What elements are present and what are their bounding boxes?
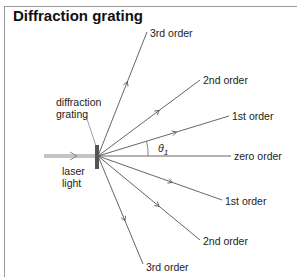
order-label: 3rd order xyxy=(150,27,193,39)
theta-angle-arc xyxy=(147,141,149,156)
order-label: 1st order xyxy=(232,110,274,122)
ray-6 xyxy=(98,156,143,264)
order-label: 1st order xyxy=(225,195,267,207)
diffraction-diagram: diffraction grating laser light θ1 3rd o… xyxy=(0,0,297,277)
grating-leader-line xyxy=(86,116,96,146)
order-label: 2nd order xyxy=(203,74,248,86)
grating-icon xyxy=(95,145,99,169)
ray-4 xyxy=(98,156,222,200)
order-label: 3rd order xyxy=(146,261,189,273)
grating-label-1: diffraction xyxy=(56,96,101,108)
laser-beam xyxy=(44,152,96,160)
laser-label-1: laser xyxy=(62,165,85,177)
order-label: zero order xyxy=(234,150,282,162)
theta-label: θ1 xyxy=(158,142,168,157)
order-label: 2nd order xyxy=(203,235,248,247)
grating-label-2: grating xyxy=(56,108,88,120)
ray-5 xyxy=(98,156,200,240)
laser-label-2: light xyxy=(62,177,81,189)
